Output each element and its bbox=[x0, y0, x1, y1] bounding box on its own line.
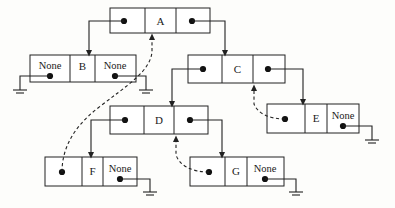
node-c-label: C bbox=[234, 63, 241, 75]
node-e-label: E bbox=[313, 112, 320, 124]
node-b-label: B bbox=[79, 60, 86, 72]
node-d-label: D bbox=[155, 114, 163, 126]
node-b[interactable]: None B None bbox=[30, 55, 136, 82]
node-b-left-none-label: None bbox=[39, 60, 62, 71]
node-e[interactable]: E None bbox=[267, 104, 359, 133]
node-f-right-none-label: None bbox=[109, 163, 132, 174]
node-e-right-none-label: None bbox=[332, 110, 355, 121]
diagram-svg: A None B None C D bbox=[0, 0, 395, 208]
node-g-right-none-label: None bbox=[254, 163, 277, 174]
node-g-label: G bbox=[232, 165, 240, 177]
node-b-right-none-label: None bbox=[104, 60, 127, 71]
node-g[interactable]: G None bbox=[190, 157, 284, 186]
node-a-label: A bbox=[157, 15, 165, 27]
node-f-label: F bbox=[89, 165, 95, 177]
node-f[interactable]: F None bbox=[45, 157, 137, 186]
diagram-canvas: A None B None C D bbox=[0, 0, 395, 208]
